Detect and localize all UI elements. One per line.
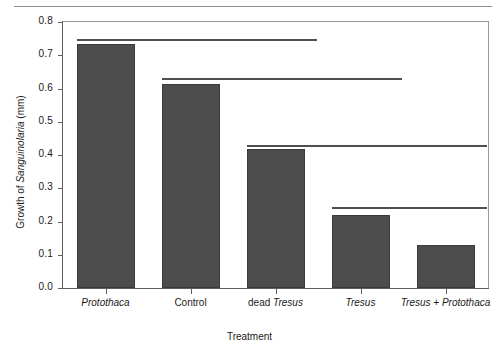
x-axis-tick-label-4: Tresus + Protothaca: [391, 297, 499, 309]
significance-line-3: [247, 145, 487, 147]
y-axis-tick-label: 0.8: [38, 15, 53, 26]
y-axis-tick-label: 0.1: [38, 248, 53, 259]
plot-border-top: [62, 21, 489, 22]
y-axis-tick-mark: [58, 222, 63, 223]
y-axis-title: Growth of Sanguinolaria (mm): [14, 29, 28, 295]
y-axis-tick-mark: [58, 288, 63, 289]
bar-chart: 0.80.70.60.50.40.30.20.10.0 ProtothacaCo…: [0, 0, 499, 349]
bar-0: [77, 44, 135, 288]
significance-line-1: [77, 39, 317, 41]
plot-border-right: [488, 21, 489, 289]
x-axis-tick-mark: [446, 289, 447, 294]
y-axis-tick-mark: [58, 155, 63, 156]
bar-2: [247, 149, 305, 288]
y-axis-tick-label: 0.4: [38, 148, 53, 159]
y-axis-tick-label: 0.6: [38, 82, 53, 93]
bar-4: [417, 245, 475, 288]
significance-line-4: [332, 207, 487, 209]
y-axis-tick-mark: [58, 188, 63, 189]
bar-1: [162, 84, 220, 288]
y-axis-tick-label: 0.0: [38, 281, 53, 292]
y-axis-tick-label: 0.2: [38, 215, 53, 226]
y-axis-tick-mark: [58, 255, 63, 256]
x-axis-title: Treatment: [0, 331, 499, 343]
y-axis-tick-mark: [58, 89, 63, 90]
x-axis-tick-mark: [106, 289, 107, 294]
x-axis-tick-mark: [361, 289, 362, 294]
y-axis-tick-label: 0.3: [38, 181, 53, 192]
significance-line-2: [162, 78, 402, 80]
x-axis-tick-mark: [276, 289, 277, 294]
y-axis-tick-mark: [58, 122, 63, 123]
y-axis-tick-mark: [58, 55, 63, 56]
bar-3: [332, 215, 390, 288]
x-axis-tick-mark: [191, 289, 192, 294]
y-axis-tick-label: 0.7: [38, 48, 53, 59]
y-axis-tick-label: 0.5: [38, 115, 53, 126]
y-axis-tick-mark: [58, 22, 63, 23]
